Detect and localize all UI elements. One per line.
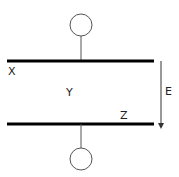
label-z: Z	[120, 109, 128, 122]
capacitor-diagram: X Y Z E	[0, 0, 179, 177]
label-e: E	[165, 85, 172, 98]
bottom-terminal-icon	[70, 148, 92, 170]
label-y: Y	[65, 86, 73, 99]
top-terminal-icon	[70, 14, 92, 36]
arrow-head-icon	[158, 123, 164, 129]
label-x: X	[8, 65, 16, 78]
